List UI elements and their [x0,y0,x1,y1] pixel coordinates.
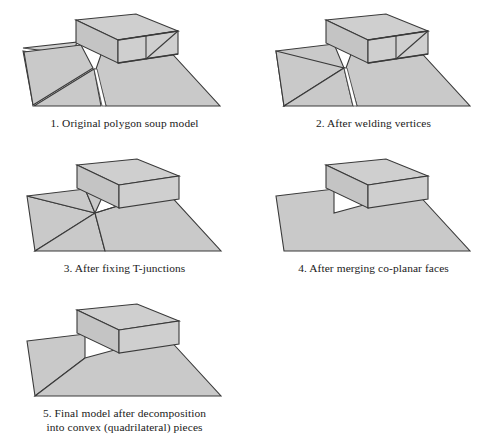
fig5-box [77,304,179,353]
figure-2-illustration [254,6,494,114]
fig1-box [76,14,178,63]
figure-4-caption: 4. After merging co-planar faces [298,261,449,275]
figure-5-illustration [5,296,245,404]
figure-1-caption: 1. Original polygon soup model [50,116,198,130]
figure-grid: 1. Original polygon soup model 2. After [0,0,498,438]
figure-2-caption: 2. After welding vertices [316,116,431,130]
figure-1: 1. Original polygon soup model [0,6,249,130]
figure-3: 3. After fixing T-junctions [0,151,249,275]
figure-4-illustration [254,151,494,259]
figure-3-illustration [5,151,245,259]
figure-5-caption: 5. Final model after decomposition into … [43,406,206,434]
fig2-box [326,14,428,63]
figure-1-illustration [5,6,245,114]
fig4-box [326,159,428,208]
figure-2: 2. After welding vertices [249,6,498,130]
figure-4: 4. After merging co-planar faces [249,151,498,275]
figure-5: 5. Final model after decomposition into … [0,296,249,434]
figure-3-caption: 3. After fixing T-junctions [64,261,186,275]
